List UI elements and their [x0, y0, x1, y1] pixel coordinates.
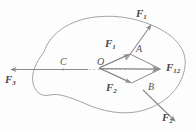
force-diagram-figure: F1 F1 F2 F2 F3 F12 O A B C	[0, 0, 196, 131]
resultant-vector	[99, 69, 159, 70]
force-1-component-label: F1	[105, 38, 116, 50]
force-2-component-label: F2	[106, 82, 117, 94]
rigid-body-outline	[33, 16, 186, 113]
point-label-o: O	[97, 57, 104, 67]
force-1-external-label: F1	[136, 8, 147, 20]
point-label-a: A	[136, 44, 142, 54]
resultant-label: F12	[166, 62, 180, 74]
point-label-b: B	[148, 82, 154, 92]
force-2-external-label: F2	[162, 112, 173, 124]
point-c-marker	[62, 69, 64, 71]
point-label-c: C	[60, 57, 67, 67]
force-3-label: F3	[5, 74, 16, 86]
force-2-component-vector	[99, 68, 131, 83]
